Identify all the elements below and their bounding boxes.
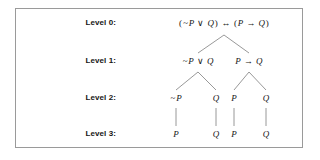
- tree-edge: [198, 35, 224, 53]
- node-level3-b: Q: [213, 129, 220, 139]
- node-level2-a: ~P: [170, 93, 182, 103]
- parse-tree-figure: Level 0: Level 1: Level 2: Level 3: (~P …: [15, 8, 303, 148]
- node-level3-c: P: [231, 129, 237, 139]
- level-label-3: Level 3:: [52, 129, 116, 138]
- tree-edge: [198, 72, 216, 90]
- level-label-1: Level 1:: [52, 56, 116, 65]
- node-level3-a: P: [173, 129, 179, 139]
- tree-edge: [249, 72, 266, 90]
- tree-edges: [16, 9, 302, 147]
- node-level1-left: ~P ∨ Q: [182, 56, 214, 66]
- node-level0-root: (~P ∨ Q) ↔ (P → Q): [178, 18, 269, 28]
- tree-edge: [224, 35, 249, 53]
- node-level2-c: P: [231, 93, 237, 103]
- node-level2-b: Q: [213, 93, 220, 103]
- node-level1-right: P → Q: [235, 56, 263, 66]
- level-label-2: Level 2:: [52, 93, 116, 102]
- level-label-0: Level 0:: [52, 18, 116, 27]
- node-level3-d: Q: [263, 129, 270, 139]
- node-level2-d: Q: [263, 93, 270, 103]
- tree-edge: [234, 72, 249, 90]
- tree-stage: Level 0: Level 1: Level 2: Level 3: (~P …: [16, 9, 302, 147]
- tree-edge: [176, 72, 198, 90]
